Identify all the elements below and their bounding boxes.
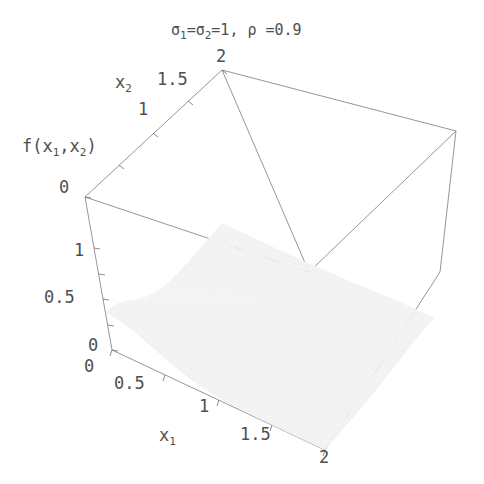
x1-tick-zero: 0: [84, 356, 94, 376]
z-axis-ticks: [85, 197, 118, 351]
x1-tick-half: 0.5: [114, 373, 145, 393]
z-tick-one: 1: [74, 240, 84, 260]
z-tick-top: 0: [59, 177, 69, 197]
z-axis-left-vertical: [85, 197, 112, 350]
x1-tick-onehalf: 1.5: [240, 424, 271, 444]
x2-axis-label: x2: [115, 72, 132, 95]
x2-tick-two: 2: [216, 46, 226, 66]
x1-tick-one: 1: [199, 396, 209, 416]
plot-svg: σ1=σ2=1, ρ =0.9 f(x1,x2) 0 1 0.5 0 x2 1 …: [0, 0, 484, 484]
x1-axis-label: x1: [159, 425, 176, 448]
box-top-back-edges: [85, 70, 456, 197]
z-tick-zero: 0: [88, 335, 98, 355]
box-diag-right: [309, 131, 456, 272]
plot-title: σ1=σ2=1, ρ =0.9: [171, 21, 302, 42]
x2-tick-onehalf: 1.5: [157, 69, 188, 89]
surface-plot-figure: σ1=σ2=1, ρ =0.9 f(x1,x2) 0 1 0.5 0 x2 1 …: [0, 0, 484, 484]
surface-mesh: [105, 223, 434, 450]
z-axis-label: f(x1,x2): [22, 136, 97, 159]
z-tick-half: 0.5: [44, 287, 75, 307]
x1-tick-two: 2: [319, 447, 329, 467]
x2-tick-one: 1: [138, 99, 148, 119]
box-vertical-right: [440, 131, 456, 272]
